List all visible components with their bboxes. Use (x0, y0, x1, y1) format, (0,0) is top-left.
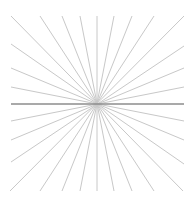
radial-line-figure (0, 0, 193, 197)
